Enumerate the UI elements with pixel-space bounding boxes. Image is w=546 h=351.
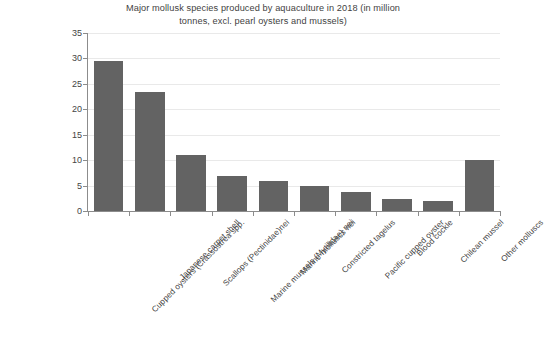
y-axis-tick-mark <box>83 58 87 59</box>
x-axis-tick-mark <box>253 212 254 216</box>
y-axis-tick-mark <box>83 84 87 85</box>
y-axis-tick-label: 10 <box>72 155 82 165</box>
x-axis-tick-mark <box>500 212 501 216</box>
y-axis-tick-mark <box>83 160 87 161</box>
y-axis-tick-mark <box>83 109 87 110</box>
y-axis-tick-label: 25 <box>72 79 82 89</box>
x-axis-tick-label: Other molluscs <box>500 218 546 264</box>
bar[interactable] <box>259 181 289 211</box>
x-axis-tick-mark <box>418 212 419 216</box>
y-axis-tick-label: 20 <box>72 104 82 114</box>
bar[interactable] <box>423 201 453 211</box>
x-axis-tick-label: Marine molluscs nei <box>299 218 358 277</box>
x-axis-tick-label: Cupped oysters (Crassostrea spp. <box>150 218 246 314</box>
x-axis-tick-mark <box>88 212 89 216</box>
y-axis-tick-label: 30 <box>72 53 82 63</box>
x-axis-tick-mark <box>129 212 130 216</box>
bar[interactable] <box>465 160 495 211</box>
chart-title-line-1: Major mollusk species produced by aquacu… <box>63 2 463 15</box>
bar[interactable] <box>382 199 412 211</box>
y-axis-tick-mark <box>83 33 87 34</box>
x-axis-tick-mark <box>294 212 295 216</box>
x-axis-tick-mark <box>335 212 336 216</box>
y-axis-tick-mark <box>83 211 87 212</box>
x-axis-tick-label: Constricted tagelus <box>340 218 397 275</box>
x-axis-tick-mark <box>376 212 377 216</box>
x-axis-tick-label: Pacific cupped oyster <box>383 218 446 281</box>
x-axis-tick-mark <box>459 212 460 216</box>
bar[interactable] <box>94 61 124 211</box>
y-axis-tick-label: 15 <box>72 130 82 140</box>
chart-title: Major mollusk species produced by aquacu… <box>63 2 463 27</box>
y-axis-tick-label: 5 <box>77 181 82 191</box>
y-axis: 05101520253035 <box>58 33 82 211</box>
y-axis-tick-mark <box>83 186 87 187</box>
bar[interactable] <box>300 186 330 211</box>
x-axis-tick-label: Marine mussels (Mytilidae) nei <box>269 218 355 304</box>
x-axis-tick-label: Blood cockle <box>415 218 455 258</box>
x-axis-tick-label: Chilean mussel <box>459 218 506 265</box>
x-axis-tick-label: Japanese carpet shell <box>178 218 242 282</box>
bar[interactable] <box>341 192 371 211</box>
bar[interactable] <box>176 155 206 211</box>
bar[interactable] <box>217 176 247 211</box>
x-axis-tick-mark <box>170 212 171 216</box>
y-axis-tick-label: 0 <box>77 206 82 216</box>
chart-title-line-2: tonnes, excl. pearl oysters and mussels) <box>63 15 463 28</box>
x-axis-tick-label: Scallops (Pectinidae)nei <box>221 218 291 288</box>
x-axis-tick-mark <box>212 212 213 216</box>
plot-area <box>88 33 500 211</box>
bars-group <box>88 33 500 211</box>
bar[interactable] <box>135 92 165 212</box>
y-axis-tick-mark <box>83 135 87 136</box>
y-axis-tick-label: 35 <box>72 28 82 38</box>
